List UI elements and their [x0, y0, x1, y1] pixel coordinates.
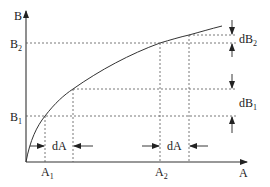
db1-label: dB1 — [239, 96, 257, 112]
da-left-label: dA — [52, 139, 67, 153]
tick-b1: B1 — [10, 110, 22, 126]
db2-label: dB2 — [239, 32, 257, 48]
tick-a1: A1 — [41, 165, 54, 181]
da-right-label: dA — [167, 139, 182, 153]
tick-a2: A2 — [155, 165, 168, 181]
diagram-canvas: B A B2 B1 A1 A2 dA dA dB2 dB1 — [0, 0, 270, 187]
x-axis-label: A — [239, 166, 248, 180]
tick-b2: B2 — [10, 37, 22, 53]
y-axis-label: B — [14, 9, 22, 23]
